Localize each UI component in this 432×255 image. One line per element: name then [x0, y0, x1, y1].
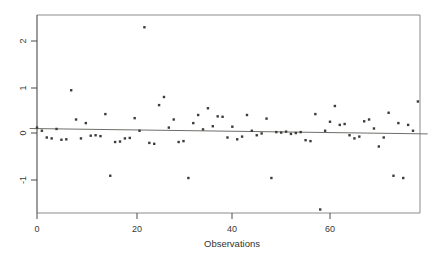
data-point-marker	[65, 138, 67, 140]
data-point-marker	[275, 131, 277, 133]
data-point-marker	[402, 177, 404, 179]
data-point-marker	[158, 104, 160, 106]
data-point-marker	[392, 175, 394, 177]
data-point-marker	[182, 140, 184, 142]
data-point-marker	[133, 117, 135, 119]
y-tick-label-minus1: -1	[18, 176, 28, 184]
data-point-marker	[260, 132, 262, 134]
data-point-marker	[143, 26, 145, 28]
data-point-marker	[148, 142, 150, 144]
data-point-marker	[387, 112, 389, 114]
data-point-marker	[202, 128, 204, 130]
data-point-marker	[256, 134, 258, 136]
data-point-marker	[236, 138, 238, 140]
y-tick-label-0: 0	[18, 130, 28, 135]
x-axis-title: Observations	[204, 238, 260, 249]
data-point-marker	[124, 137, 126, 139]
data-point-marker	[207, 107, 209, 109]
data-point-marker	[290, 133, 292, 135]
data-point-marker	[417, 100, 419, 102]
data-point-marker	[104, 113, 106, 115]
residual-scatter-chart: 2 1 0 -1 0 20 40 60 Observations	[0, 0, 432, 255]
chart-background	[0, 0, 432, 255]
data-point-marker	[383, 136, 385, 138]
data-point-marker	[280, 131, 282, 133]
data-point-marker	[192, 122, 194, 124]
data-point-marker	[41, 130, 43, 132]
data-point-marker	[358, 135, 360, 137]
data-point-marker	[109, 175, 111, 177]
x-tick-label-40: 40	[227, 224, 237, 234]
data-point-marker	[173, 118, 175, 120]
data-point-marker	[246, 114, 248, 116]
data-point-marker	[407, 124, 409, 126]
data-point-marker	[319, 208, 321, 210]
data-point-marker	[300, 131, 302, 133]
y-tick-label-2: 2	[18, 38, 28, 43]
data-point-marker	[343, 123, 345, 125]
data-point-marker	[70, 89, 72, 91]
data-point-marker	[46, 136, 48, 138]
data-point-marker	[80, 137, 82, 139]
data-point-marker	[348, 134, 350, 136]
scatter-plot-figure: 2 1 0 -1 0 20 40 60 Observations	[0, 0, 432, 255]
data-point-marker	[314, 113, 316, 115]
data-point-marker	[55, 128, 57, 130]
data-point-marker	[187, 177, 189, 179]
data-point-marker	[324, 130, 326, 132]
x-tick-label-20: 20	[132, 224, 142, 234]
data-point-marker	[295, 132, 297, 134]
data-point-marker	[378, 145, 380, 147]
data-point-marker	[168, 126, 170, 128]
data-point-marker	[304, 139, 306, 141]
data-point-marker	[90, 135, 92, 137]
data-point-marker	[50, 137, 52, 139]
data-point-marker	[241, 135, 243, 137]
data-point-marker	[153, 143, 155, 145]
data-point-marker	[251, 130, 253, 132]
data-point-marker	[138, 130, 140, 132]
data-point-marker	[309, 140, 311, 142]
data-point-marker	[114, 141, 116, 143]
data-point-marker	[329, 121, 331, 123]
data-point-marker	[177, 141, 179, 143]
data-point-marker	[334, 105, 336, 107]
x-tick-label-60: 60	[325, 224, 335, 234]
data-point-marker	[36, 126, 38, 128]
data-point-marker	[363, 120, 365, 122]
data-point-marker	[99, 135, 101, 137]
data-point-marker	[60, 139, 62, 141]
data-point-marker	[265, 117, 267, 119]
data-point-marker	[119, 140, 121, 142]
data-point-marker	[163, 96, 165, 98]
data-point-marker	[270, 177, 272, 179]
data-point-marker	[285, 130, 287, 132]
data-point-marker	[75, 118, 77, 120]
x-tick-label-0: 0	[34, 224, 39, 234]
data-point-marker	[368, 118, 370, 120]
y-tick-label-1: 1	[18, 85, 28, 90]
data-point-marker	[397, 122, 399, 124]
data-point-marker	[231, 126, 233, 128]
data-point-marker	[353, 137, 355, 139]
data-point-marker	[85, 122, 87, 124]
data-point-marker	[226, 136, 228, 138]
data-point-marker	[373, 127, 375, 129]
data-point-marker	[221, 116, 223, 118]
data-point-marker	[212, 125, 214, 127]
data-point-marker	[94, 134, 96, 136]
data-point-marker	[216, 115, 218, 117]
data-point-marker	[412, 130, 414, 132]
data-point-marker	[339, 124, 341, 126]
data-point-marker	[197, 114, 199, 116]
data-point-marker	[129, 137, 131, 139]
